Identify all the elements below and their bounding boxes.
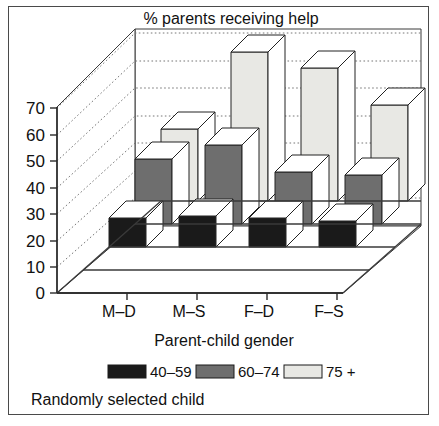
legend-label-40-59: 40–59 [150, 363, 192, 380]
y-tick-label-20: 20 [26, 232, 45, 251]
x-axis: M–D M–S F–D F–S [57, 293, 344, 320]
chart-legend: 40–59 60–74 75 + [108, 363, 356, 380]
bar-chart-3d: 70 60 50 40 30 20 10 0 [9, 7, 428, 414]
x-tick-label-fs: F–S [314, 303, 343, 320]
y-tick-label-0: 0 [36, 284, 45, 303]
y-tick-label-50: 50 [26, 152, 45, 171]
y-tick-label-40: 40 [26, 179, 45, 198]
figure-caption: Randomly selected child [31, 391, 204, 408]
y-tick-label-70: 70 [26, 99, 45, 118]
legend-label-60-74: 60–74 [238, 363, 280, 380]
x-tick-label-ms: M–S [173, 303, 206, 320]
y-tick-label-10: 10 [26, 258, 45, 277]
legend-swatch-60-74 [196, 365, 234, 378]
y-tick-label-60: 60 [26, 126, 45, 145]
x-axis-title: Parent-child gender [154, 332, 294, 349]
figure-page: 70 60 50 40 30 20 10 0 [0, 0, 439, 426]
legend-label-75plus: 75 + [326, 363, 356, 380]
figure-frame: 70 60 50 40 30 20 10 0 [8, 6, 429, 415]
chart-title: % parents receiving help [143, 10, 318, 27]
y-tick-label-30: 30 [26, 205, 45, 224]
legend-swatch-75plus [284, 365, 322, 378]
x-tick-label-md: M–D [102, 303, 136, 320]
legend-swatch-40-59 [108, 365, 146, 378]
x-tick-label-fd: F–D [244, 303, 274, 320]
y-axis: 70 60 50 40 30 20 10 0 [26, 99, 57, 303]
